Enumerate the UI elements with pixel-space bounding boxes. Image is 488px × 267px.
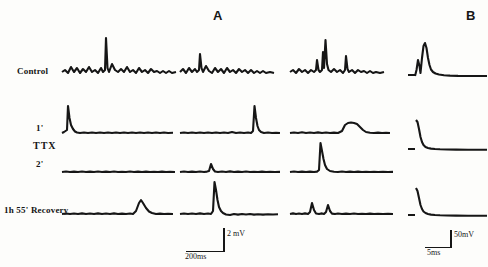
trace-control-col1 (60, 34, 180, 78)
panel-letter-a: A (213, 8, 222, 23)
scalebar-b-vertical-label: 50mV (454, 230, 474, 239)
trace-2min-col1 (60, 150, 180, 182)
trace-control-col3 (288, 34, 393, 78)
trace-1min-col1 (60, 100, 180, 138)
trace-recovery-col2 (178, 180, 283, 224)
row-label-2min: 2' (36, 159, 43, 169)
scalebar-panel-a: 2 mV 200ms (186, 228, 266, 262)
trace-1min-col2 (178, 100, 283, 138)
scalebar-a-vertical-bar (223, 228, 225, 252)
trace-2min-col2 (178, 150, 283, 182)
trace-2min-col3 (288, 137, 398, 182)
scalebar-panel-b: 50mV 5ms (425, 230, 487, 262)
trace-b-control (414, 40, 488, 84)
trace-recovery-col3 (288, 190, 398, 224)
trace-recovery-col1 (60, 190, 180, 224)
trace-b-1min (414, 118, 488, 158)
scalebar-a-vertical-label: 2 mV (227, 229, 245, 238)
row-label-1min: 1' (36, 123, 43, 133)
scalebar-a-horizontal-label: 200ms (185, 252, 206, 261)
figure-root: A B Control 1' TTX 2' 1h 55' Recovery (0, 0, 488, 267)
trace-control-col2 (178, 34, 283, 78)
row-label-recovery: 1h 55' Recovery (4, 205, 68, 215)
row-label-control: Control (17, 66, 48, 76)
scalebar-b-vertical-bar (450, 230, 452, 248)
row-label-ttx: TTX (33, 140, 57, 151)
trace-b-recovery (414, 186, 488, 224)
trace-1min-col3 (288, 100, 393, 138)
panel-letter-b: B (466, 8, 475, 23)
scalebar-b-horizontal-label: 5ms (427, 248, 440, 257)
